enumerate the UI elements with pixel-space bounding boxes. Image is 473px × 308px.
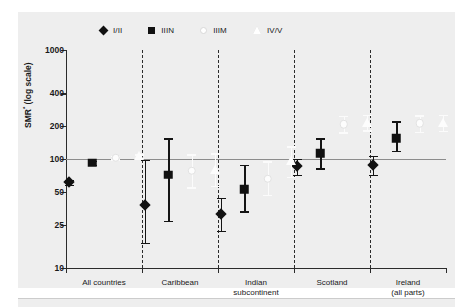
y-tick-label-10: 10 [4, 263, 64, 273]
confidence-interval-upper-cap [263, 161, 272, 162]
confidence-interval-upper-cap [287, 146, 296, 147]
legend-label-iv-v: IV/V [267, 26, 283, 35]
reference-line-100 [66, 159, 446, 160]
x-tick-4 [370, 268, 371, 273]
y-axis-title-footnote-marker: * [22, 107, 28, 109]
square-data-marker [316, 149, 325, 158]
legend-label-i-ii: I/II [113, 26, 122, 35]
confidence-interval-lower-cap [211, 186, 220, 187]
confidence-interval-upper-cap [316, 138, 325, 139]
square-data-marker [392, 134, 401, 143]
y-axis-title-scale: (log scale) [23, 62, 33, 106]
circle-data-marker [415, 119, 424, 128]
legend-label-iiin: IIIN [161, 26, 174, 35]
diamond-marker-icon [99, 25, 109, 35]
confidence-interval-lower-cap [439, 131, 448, 132]
triangle-marker-icon [253, 26, 261, 34]
confidence-interval-lower-cap [339, 132, 348, 133]
circle-data-marker [111, 153, 120, 162]
triangle-data-marker [438, 118, 448, 127]
triangle-data-marker [286, 156, 296, 165]
x-tick-1 [142, 268, 143, 273]
y-tick-label-200: 200 [4, 121, 64, 131]
square-data-marker [240, 185, 249, 194]
triangle-data-marker [362, 118, 372, 127]
confidence-interval-lower-cap [287, 177, 296, 178]
confidence-interval-lower-cap [369, 175, 378, 176]
confidence-interval-line [168, 138, 169, 221]
confidence-interval-upper-cap [439, 115, 448, 116]
y-tick-label-1000: 1000 [4, 45, 64, 55]
x-tick-5 [446, 268, 447, 273]
confidence-interval-lower-cap [263, 195, 272, 196]
confidence-interval-upper-cap [217, 198, 226, 199]
legend-label-iiim: IIIM [213, 26, 227, 35]
group-divider-2 [218, 50, 219, 268]
circle-marker-icon [200, 27, 207, 34]
group-label-ireland-all-parts: Ireland(all parts) [363, 278, 453, 298]
legend-item-iiin: IIIN [148, 26, 174, 35]
confidence-interval-lower-cap [415, 132, 424, 133]
group-divider-4 [370, 50, 371, 268]
y-tick-label-100: 100 [4, 154, 64, 164]
square-data-marker [164, 170, 173, 179]
confidence-interval-lower-cap [392, 151, 401, 152]
square-marker-icon [148, 27, 155, 34]
legend-item-i-ii: I/II [100, 26, 122, 35]
triangle-data-marker [210, 165, 220, 174]
y-tick-label-400: 400 [4, 88, 64, 98]
circle-data-marker [339, 120, 348, 129]
figure-root: I/II IIIN IIIM IV/V SMR* (log scale) 100… [0, 0, 473, 308]
legend-item-iv-v: IV/V [253, 26, 283, 35]
confidence-interval-upper-cap [339, 116, 348, 117]
circle-data-marker [263, 174, 272, 183]
triangle-data-marker [134, 151, 144, 160]
confidence-interval-lower-cap [217, 231, 226, 232]
circle-data-marker [187, 167, 196, 176]
confidence-interval-upper-cap [415, 115, 424, 116]
confidence-interval-lower-cap [164, 221, 173, 222]
y-tick-label-50: 50 [4, 187, 64, 197]
confidence-interval-upper-cap [363, 115, 372, 116]
square-data-marker [88, 159, 97, 168]
confidence-interval-upper-cap [392, 121, 401, 122]
plot-area: 1000400200100502510 All countriesCaribbe… [66, 50, 446, 268]
confidence-interval-lower-cap [187, 187, 196, 188]
confidence-interval-lower-cap [363, 130, 372, 131]
x-tick-2 [218, 268, 219, 273]
chart-legend: I/II IIIN IIIM IV/V [100, 23, 308, 37]
y-tick-label-25: 25 [4, 220, 64, 230]
confidence-interval-upper-cap [187, 154, 196, 155]
confidence-interval-upper-cap [211, 153, 220, 154]
confidence-interval-lower-cap [240, 211, 249, 212]
confidence-interval-upper-cap [369, 156, 378, 157]
legend-item-iiim: IIIM [200, 26, 227, 35]
x-axis-line [66, 268, 446, 269]
confidence-interval-lower-cap [316, 168, 325, 169]
x-tick-3 [294, 268, 295, 273]
adjacent-panel-edge [18, 298, 455, 307]
x-tick-0 [66, 268, 67, 273]
confidence-interval-lower-cap [141, 243, 150, 244]
confidence-interval-upper-cap [240, 165, 249, 166]
confidence-interval-upper-cap [164, 138, 173, 139]
